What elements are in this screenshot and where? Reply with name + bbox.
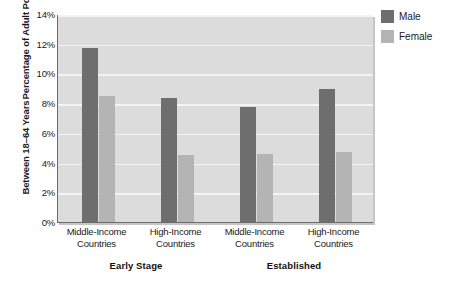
x-group-label-1: Early Stage [57,260,215,271]
y-axis-tick-8: 8% [13,99,55,109]
y-axis-tick-10: 10% [13,69,55,79]
x-category-label-3: Middle-IncomeCountries [209,226,300,249]
legend-item-female: Female [381,30,467,43]
bar-male-1 [82,48,98,222]
source-caption [4,279,464,286]
gridline [58,15,373,17]
bar-male-2 [161,98,177,222]
x-category-label-line1: Middle-Income [51,226,142,238]
y-axis-tick-labels: 0%2%4%6%8%10%12%14% [0,0,55,286]
gridline [58,45,373,47]
legend-label-female: Female [399,30,432,43]
legend-swatch-female [381,30,394,43]
x-category-label-line2: Countries [209,238,300,250]
x-category-label-line2: Countries [51,238,142,250]
x-category-label-line1: Middle-Income [209,226,300,238]
legend-label-male: Male [399,10,421,23]
x-category-label-2: High-IncomeCountries [130,226,221,249]
legend-swatch-male [381,10,394,23]
bar-male-4 [319,89,335,222]
x-axis-category-labels: Middle-IncomeCountriesHigh-IncomeCountri… [57,226,373,254]
x-category-label-4: High-IncomeCountries [288,226,379,249]
y-axis-tick-2: 2% [13,188,55,198]
plot-area [57,15,373,223]
y-axis-tick-6: 6% [13,129,55,139]
bar-female-4 [336,152,352,222]
x-category-label-line1: High-Income [130,226,221,238]
bar-chart: Percentage of Adult Population Between 1… [0,0,468,286]
x-category-label-1: Middle-IncomeCountries [51,226,142,249]
y-axis-tick-14: 14% [13,10,55,20]
x-axis-group-labels: Early StageEstablished [57,260,373,274]
bar-female-2 [178,155,194,222]
x-category-label-line1: High-Income [288,226,379,238]
bar-female-3 [257,154,273,222]
x-category-label-line2: Countries [130,238,221,250]
bar-female-1 [99,96,115,222]
y-axis-tick-4: 4% [13,159,55,169]
x-group-label-2: Established [215,260,373,271]
y-axis-tick-0: 0% [13,218,55,228]
gridline [58,74,373,76]
plot-inner [58,15,373,222]
legend-item-male: Male [381,10,467,23]
legend: MaleFemale [381,10,467,50]
x-category-label-line2: Countries [288,238,379,250]
bar-male-3 [240,107,256,222]
y-axis-tick-12: 12% [13,40,55,50]
